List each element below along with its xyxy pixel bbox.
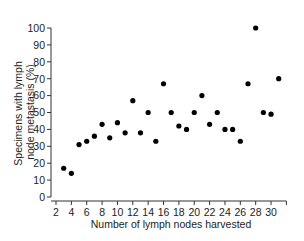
- data-point: [123, 130, 128, 135]
- data-point: [215, 110, 220, 115]
- x-tick-label: 20: [188, 206, 200, 218]
- y-tick-label: 100: [27, 22, 45, 34]
- data-point: [146, 110, 151, 115]
- data-point: [169, 110, 174, 115]
- x-tick-label: 24: [219, 206, 231, 218]
- y-tick-label: 90: [33, 39, 45, 51]
- x-tick-label: 26: [234, 206, 246, 218]
- data-point: [115, 120, 120, 125]
- x-axis: 24681012141618202224262830: [51, 201, 286, 218]
- x-tick-label: 22: [204, 206, 216, 218]
- x-tick-label: 6: [84, 206, 90, 218]
- data-point: [153, 139, 158, 144]
- data-point: [138, 130, 143, 135]
- x-tick-label: 8: [99, 206, 105, 218]
- data-point: [276, 76, 281, 81]
- data-point: [161, 81, 166, 86]
- y-axis-label-line-2: node metastasis (%): [24, 64, 36, 160]
- y-tick-label: 0: [39, 191, 45, 203]
- data-point: [84, 139, 89, 144]
- y-tick-label: 10: [33, 174, 45, 186]
- data-point: [69, 171, 74, 176]
- x-tick-label: 10: [112, 206, 124, 218]
- data-point: [230, 127, 235, 132]
- data-point: [207, 122, 212, 127]
- x-tick-label: 12: [127, 206, 139, 218]
- data-point: [222, 127, 227, 132]
- data-point: [192, 110, 197, 115]
- data-point: [92, 134, 97, 139]
- y-axis-label-line-1: Specimens with lymph: [12, 61, 24, 166]
- scatter-chart: 0102030405060708090100 24681012141618202…: [0, 0, 304, 241]
- x-tick-label: 14: [142, 206, 154, 218]
- y-axis-label: Specimens with lymph node metastasis (%): [12, 58, 36, 165]
- x-tick-label: 30: [265, 206, 277, 218]
- x-tick-label: 2: [53, 206, 59, 218]
- x-tick-label: 16: [158, 206, 170, 218]
- data-point: [130, 98, 135, 103]
- x-tick-label: 18: [173, 206, 185, 218]
- x-tick-label: 28: [250, 206, 262, 218]
- data-point: [61, 166, 66, 171]
- data-point: [253, 25, 258, 30]
- data-point: [199, 93, 204, 98]
- data-point: [268, 112, 273, 117]
- data-points: [61, 25, 281, 176]
- data-point: [99, 122, 104, 127]
- data-point: [107, 135, 112, 140]
- data-point: [176, 123, 181, 128]
- x-axis-label: Number of lymph nodes harvested: [91, 218, 252, 230]
- x-tick-label: 4: [68, 206, 74, 218]
- data-point: [245, 81, 250, 86]
- data-point: [261, 110, 266, 115]
- data-point: [76, 142, 81, 147]
- data-point: [184, 127, 189, 132]
- data-point: [238, 139, 243, 144]
